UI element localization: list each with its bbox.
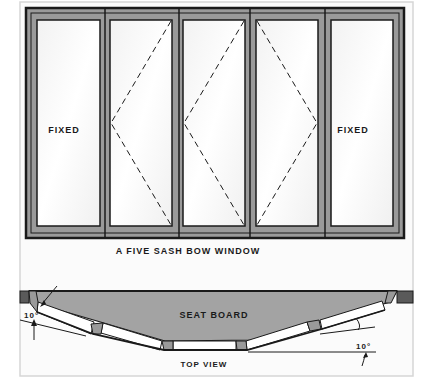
- top-view-caption: TOP VIEW: [181, 360, 228, 369]
- post: [162, 341, 173, 350]
- sash-5-fixed: FIXED: [327, 14, 398, 232]
- post: [236, 341, 247, 350]
- seat-board-label: SEAT BOARD: [180, 310, 249, 320]
- figure-title: A FIVE SASH BOW WINDOW: [116, 246, 261, 256]
- sash-3-casement: [181, 14, 248, 232]
- wall-left: [20, 291, 29, 303]
- angle-label-left: 10°: [24, 311, 39, 320]
- bow-window-diagram: FIXED FIXED A FIVE SASH BOW WINDOW: [0, 0, 428, 384]
- window-elevation: FIXED FIXED A FIVE SASH BOW WINDOW: [25, 7, 405, 256]
- sash-2-casement: [107, 14, 177, 232]
- sash-1-fixed: FIXED: [32, 14, 103, 232]
- wall-right: [397, 291, 413, 303]
- sash-4-casement: [252, 14, 323, 232]
- fixed-label-right: FIXED: [337, 125, 369, 135]
- post: [91, 323, 103, 334]
- fixed-label-left: FIXED: [48, 125, 80, 135]
- angle-label-right: 10°: [356, 342, 371, 351]
